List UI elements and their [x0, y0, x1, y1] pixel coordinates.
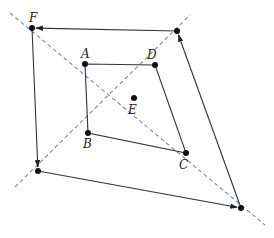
arrow-f-to-h: [32, 28, 38, 167]
arrow-h-to-i: [38, 171, 237, 207]
diagram-canvas: F A D E B C: [0, 0, 274, 238]
dashed-line: [15, 15, 190, 187]
point-g: [174, 28, 180, 34]
label-b: B: [82, 137, 92, 151]
point-d: [152, 62, 158, 68]
point-f: [29, 25, 35, 31]
point-i: [238, 205, 244, 211]
point-e: [131, 95, 137, 101]
label-e: E: [127, 103, 137, 117]
label-a: A: [80, 47, 90, 61]
arrow-g-to-f: [36, 28, 177, 31]
point-h: [35, 168, 41, 174]
dashed-lines: [10, 13, 265, 225]
label-c: C: [179, 158, 188, 172]
point-b: [85, 130, 91, 136]
label-d: D: [146, 48, 157, 62]
point-c: [183, 150, 189, 156]
arrow-i-to-g: [178, 35, 241, 208]
label-f: F: [28, 11, 38, 25]
dashed-line: [10, 13, 265, 225]
point-a: [82, 61, 88, 67]
